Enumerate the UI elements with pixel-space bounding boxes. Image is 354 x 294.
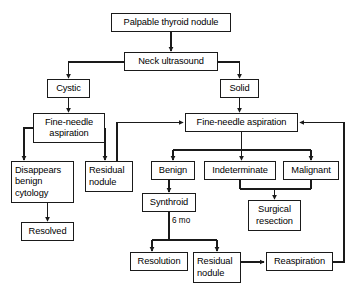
node-surgical-resection: Surgical resection [248, 200, 301, 231]
node-indeterminate: Indeterminate [204, 161, 276, 180]
node-solid: Solid [220, 79, 259, 98]
edge-neck-ultrasound-to-solid [218, 62, 240, 78]
node-residual-nodule-cystic: Residual nodule [85, 161, 133, 192]
edge-fna-left-to-disappears [24, 128, 33, 160]
node-fine-needle-aspiration-solid: Fine-needle aspiration [185, 113, 298, 132]
node-residual-nodule-bottom: Residual nodule [193, 252, 241, 283]
node-reaspiration: Reaspiration [266, 252, 333, 271]
edge-reaspiration-to-fna-right [300, 123, 344, 263]
node-synthroid: Synthroid [142, 193, 196, 212]
flowchart-canvas: Palpable thyroid nodule Neck ultrasound … [0, 0, 354, 294]
node-disappears-benign-cytology: Disappears benign cytology [11, 161, 74, 203]
node-malignant: Malignant [283, 161, 339, 180]
node-resolution: Resolution [130, 252, 188, 271]
edge-neck-ultrasound-to-cystic [69, 62, 125, 78]
flowchart-edges [0, 0, 354, 294]
node-cystic: Cystic [47, 79, 90, 98]
node-palpable-thyroid-nodule: Palpable thyroid nodule [111, 13, 231, 32]
edge-label-six-months: 6 mo [172, 216, 190, 225]
node-benign: Benign [151, 161, 195, 180]
node-resolved: Resolved [21, 222, 74, 241]
node-neck-ultrasound: Neck ultrasound [124, 52, 218, 71]
node-fine-needle-aspiration-cystic: Fine-needle aspiration [33, 113, 105, 143]
